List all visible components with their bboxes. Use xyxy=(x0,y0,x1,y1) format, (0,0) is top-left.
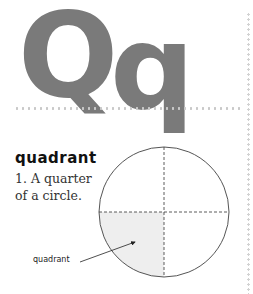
quadrant-label: quadrant xyxy=(33,255,70,264)
quadrant-diagram xyxy=(0,0,253,294)
